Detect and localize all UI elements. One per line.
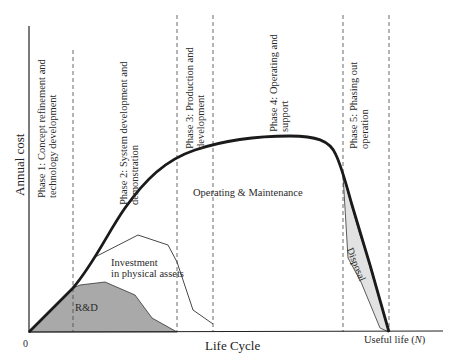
origin-label: 0 [23,338,28,349]
useful-life-var: N [415,334,422,345]
investment-line1: Investment [111,257,184,268]
investment-line2: in physical assets [111,268,184,279]
useful-life-text: Useful life ( [364,334,415,345]
phase-4-line2: support [279,34,290,132]
phase-3-line1: Phase 3: Production and [184,47,195,149]
y-axis-label: Annual cost [12,134,28,196]
phase-2-label: Phase 2: System development and demonstr… [118,62,140,205]
phase-1-line1: Phase 1: Concept refinement and [36,59,47,198]
phase-1-label: Phase 1: Concept refinement and technolo… [36,59,58,198]
phase-4-label: Phase 4: Operating and support [268,34,290,132]
investment-label: Investment in physical assets [111,257,184,279]
phase-5-line2: operation [359,62,370,149]
useful-life-label: Useful life (N) [364,334,425,345]
phase-5-line1: Phase 5: Phasing out [348,62,359,149]
phase-3-label: Phase 3: Production and development [184,47,206,149]
phase-2-line2: demonstration [129,62,140,205]
x-axis-label: Life Cycle [205,338,260,354]
phase-3-line2: development [195,47,206,149]
phase-5-label: Phase 5: Phasing out operation [348,62,370,149]
phase-4-line1: Phase 4: Operating and [268,34,279,132]
phase-2-line1: Phase 2: System development and [118,62,129,205]
life-cycle-cost-diagram [0,0,452,361]
useful-life-suffix: ) [422,334,426,345]
phase-1-line2: technology development [47,59,58,198]
operating-maintenance-label: Operating & Maintenance [193,187,303,198]
rd-area [29,282,177,332]
rd-label: R&D [75,302,98,313]
